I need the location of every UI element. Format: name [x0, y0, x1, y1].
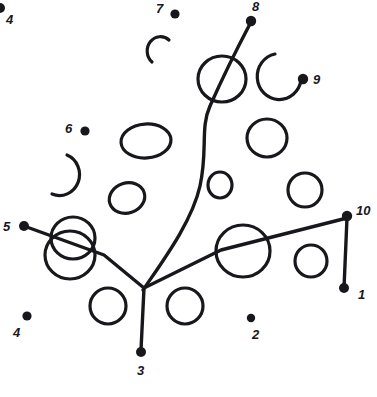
dot-7-label: 7 — [156, 1, 164, 16]
dot-6[interactable] — [80, 126, 89, 135]
dot-1-label: 1 — [358, 287, 365, 302]
dot-4b-label: 4 — [12, 325, 21, 340]
dot-8[interactable] — [246, 16, 256, 26]
dot-4a-label: 4 — [5, 12, 14, 27]
dot-2[interactable] — [247, 314, 255, 322]
dot-9[interactable] — [298, 74, 308, 84]
dot-4b[interactable] — [22, 311, 31, 320]
dot-10[interactable] — [342, 211, 352, 221]
dot-2-label: 2 — [251, 327, 260, 342]
dot-3-label: 3 — [137, 363, 145, 378]
dot-6-label: 6 — [65, 121, 73, 136]
dot-10-label: 10 — [356, 203, 371, 218]
dot-7[interactable] — [170, 9, 179, 18]
dot-9-label: 9 — [313, 72, 321, 87]
dot-5[interactable] — [19, 221, 29, 231]
dot-5-label: 5 — [3, 219, 11, 234]
connect-the-dots-canvas: 123445678910 — [0, 0, 377, 397]
dot-3[interactable] — [136, 347, 146, 357]
puzzle-drawing: 123445678910 — [0, 0, 377, 397]
dot-8-label: 8 — [252, 0, 260, 14]
dot-1[interactable] — [339, 283, 349, 293]
